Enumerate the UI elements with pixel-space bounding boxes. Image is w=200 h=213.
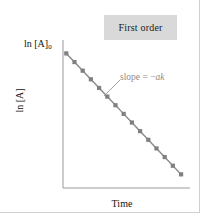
- data-point-marker: [97, 86, 101, 90]
- data-point-marker: [113, 103, 117, 107]
- data-point-marker: [122, 112, 126, 116]
- initial-concentration-label: ln [A]0: [24, 38, 52, 49]
- data-point-marker: [72, 60, 76, 64]
- data-point-marker: [171, 164, 175, 168]
- data-point-marker: [138, 129, 142, 133]
- kinetics-plot-figure: First order ln [A]0 slope = −ak ln [A] T…: [0, 0, 200, 213]
- initial-concentration-text: ln [A]: [24, 38, 48, 49]
- y-axis-title: ln [A]: [14, 71, 25, 131]
- data-point-marker: [163, 155, 167, 159]
- slope-leader-line: [104, 80, 120, 96]
- slope-annotation-variable: ak: [156, 72, 165, 82]
- data-point-marker: [64, 51, 68, 55]
- data-point-marker: [105, 95, 109, 99]
- data-point-marker: [81, 69, 85, 73]
- data-point-marker: [146, 138, 150, 142]
- legend-box: First order: [104, 15, 177, 40]
- data-point-marker: [154, 146, 158, 150]
- slope-annotation-text: slope = −: [120, 72, 156, 82]
- data-point-marker: [89, 77, 93, 81]
- data-point-marker: [179, 172, 183, 176]
- slope-annotation: slope = −ak: [120, 72, 165, 82]
- data-series-first-order: [64, 51, 183, 176]
- data-point-marker: [130, 120, 134, 124]
- x-axis-title: Time: [62, 198, 182, 209]
- initial-concentration-subscript: 0: [48, 43, 52, 51]
- legend-label: First order: [118, 22, 162, 33]
